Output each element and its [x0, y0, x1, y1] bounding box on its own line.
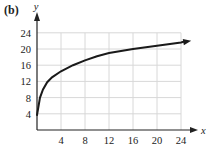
x-tick-label: 12	[104, 135, 115, 146]
y-tick-label: 4	[26, 109, 32, 120]
y-tick-label: 12	[21, 76, 32, 87]
chart-plot: 48121620244812162024xy	[0, 0, 208, 147]
x-tick-label: 8	[82, 135, 87, 146]
y-tick-label: 16	[21, 60, 32, 71]
grid-lines	[37, 33, 181, 130]
x-tick-label: 16	[128, 135, 139, 146]
x-axis-arrowhead	[190, 127, 198, 133]
x-axis-label: x	[200, 125, 206, 136]
y-tick-label: 24	[21, 28, 32, 39]
y-axis-label: y	[33, 1, 39, 12]
y-tick-label: 8	[26, 93, 31, 104]
y-tick-label: 20	[21, 44, 32, 55]
x-tick-label: 24	[176, 135, 187, 146]
curve-arrowhead	[183, 39, 191, 45]
x-tick-label: 20	[152, 135, 163, 146]
y-axis-arrowhead	[34, 12, 40, 21]
x-tick-label: 4	[58, 135, 64, 146]
data-curve	[37, 41, 185, 115]
tick-labels: 48121620244812162024xy	[21, 1, 207, 146]
